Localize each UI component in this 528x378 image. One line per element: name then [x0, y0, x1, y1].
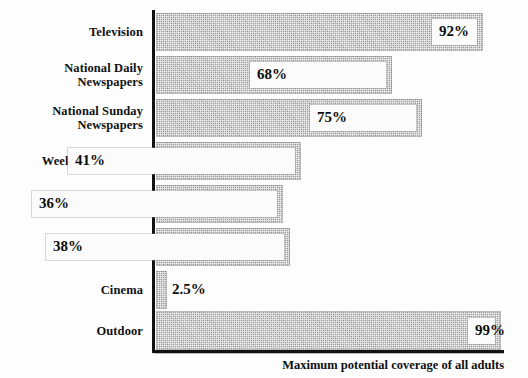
bar [156, 271, 167, 309]
bar-row: Weekly Magazines41% [0, 142, 528, 180]
chart-page: Television92%National DailyNewspapers68%… [0, 0, 528, 378]
bar-row: Cinema2.5% [0, 271, 528, 309]
bar-row: National DailyNewspapers68% [0, 56, 528, 94]
category-label-line: Newspapers [77, 75, 143, 89]
category-label: National DailyNewspapers [0, 56, 143, 94]
bar-row: Monthly Magazines36% [0, 185, 528, 223]
bar-row: National SundayNewspapers75% [0, 99, 528, 137]
bar-value-label: 92% [432, 19, 477, 45]
bar-chart: Television92%National DailyNewspapers68%… [0, 0, 528, 378]
x-axis-caption: Maximum potential coverage of all adults [152, 358, 504, 373]
category-label: Outdoor [0, 311, 143, 350]
bar-value-label: 68% [250, 62, 386, 88]
bar-value-label: 36% [32, 191, 277, 217]
bar [156, 311, 501, 350]
category-label-line: Television [89, 25, 143, 39]
bar-value-label: 38% [46, 234, 284, 260]
category-label-line: Cinema [101, 283, 143, 297]
category-label: Cinema [0, 271, 143, 309]
category-label-line: National Daily [64, 61, 143, 75]
bar-row: Radio38% [0, 228, 528, 266]
bar-value-label: 75% [310, 105, 416, 131]
bar-value-label: 41% [68, 148, 295, 174]
bar-row: Television92% [0, 13, 528, 51]
bar-value-label: 2.5% [172, 277, 213, 303]
category-label-line: Newspapers [77, 118, 143, 132]
category-label-line: Outdoor [96, 324, 143, 338]
value-axis-shadow [154, 353, 504, 354]
bar-row: Outdoor99% [0, 311, 528, 350]
category-label: National SundayNewspapers [0, 99, 143, 137]
bar-value-label: 99% [468, 318, 495, 344]
category-label-line: National Sunday [52, 104, 143, 118]
category-label: Television [0, 13, 143, 51]
